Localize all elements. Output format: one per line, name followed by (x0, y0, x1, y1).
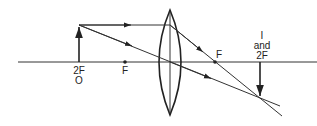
label-focus-left: F (122, 65, 128, 76)
label-focus-right: F (216, 49, 222, 60)
label-image-2f: 2F (256, 50, 268, 61)
ray-diagram: 2F O F F I and 2F (0, 0, 317, 126)
label-object-o: O (75, 75, 83, 86)
focal-point-left (123, 60, 127, 64)
center-ray-arrow-2 (170, 62, 211, 79)
focal-point-right (213, 60, 217, 64)
center-ray-arrow-1 (79, 25, 132, 46)
refracted-ray-arrow (170, 25, 203, 52)
